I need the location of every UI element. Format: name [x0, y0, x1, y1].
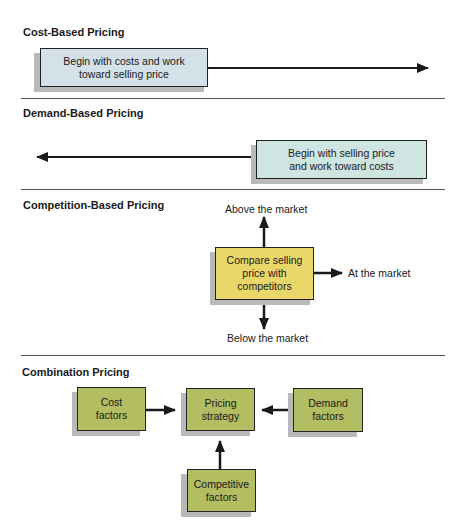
below-market-label: Below the market [227, 332, 308, 344]
pricing-strategy-box: Pricingstrategy [186, 388, 255, 431]
box-text: toward selling price [79, 68, 169, 80]
section-title-cost: Cost-Based Pricing [23, 26, 124, 38]
box-text: factors [206, 491, 238, 503]
box-text: strategy [202, 410, 239, 422]
competitive-factors-box: Competitivefactors [187, 469, 256, 512]
box-text: Cost [101, 396, 123, 408]
section-divider [21, 189, 445, 190]
box-text: Begin with costs and work [63, 55, 184, 67]
box-text: factors [96, 409, 128, 421]
at-market-label: At the market [348, 267, 410, 279]
section-title-competition: Competition-Based Pricing [23, 199, 164, 211]
box-text: Begin with selling price [288, 147, 395, 159]
box-text: price with [242, 267, 286, 279]
section-title-combination: Combination Pricing [22, 366, 130, 378]
demand-based-box: Begin with selling priceand work toward … [256, 140, 427, 179]
box-text: competitors [237, 280, 291, 292]
section-divider [21, 355, 445, 356]
cost-based-box: Begin with costs and worktoward selling … [40, 48, 208, 87]
above-market-label: Above the market [225, 203, 307, 215]
box-text: Demand [308, 397, 348, 409]
box-text: Pricing [204, 397, 236, 409]
section-divider [21, 98, 445, 99]
box-text: factors [312, 410, 344, 422]
box-text: Competitive [194, 478, 249, 490]
box-text: Compare selling [227, 254, 303, 266]
competition-box: Compare sellingprice withcompetitors [215, 247, 314, 300]
box-text: and work toward costs [289, 160, 393, 172]
section-title-demand: Demand-Based Pricing [23, 107, 143, 119]
demand-factors-box: Demandfactors [293, 388, 363, 432]
cost-factors-box: Costfactors [77, 387, 146, 431]
